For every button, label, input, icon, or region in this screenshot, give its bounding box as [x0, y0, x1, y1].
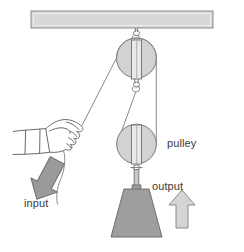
output-arrow	[169, 190, 195, 228]
rope-free-end-segment	[82, 58, 117, 127]
label-output: output	[152, 180, 183, 192]
pulley-diagram: pulley input output	[0, 0, 244, 252]
load-shackle	[131, 165, 143, 190]
ceiling-beam	[31, 11, 213, 28]
label-pulley: pulley	[167, 137, 197, 149]
movable-pulley	[117, 124, 157, 164]
pulley-diagram-svg: pulley input output	[0, 0, 244, 252]
load-weight-body	[111, 189, 162, 237]
arm-bottom-edge	[13, 152, 50, 154]
load-shackle-shaft	[134, 170, 139, 186]
load-weight	[111, 189, 162, 237]
rope-anchor-hook	[132, 79, 139, 92]
sleeve-cuff-left-edge	[25, 130, 26, 154]
arm-top-edge	[13, 129, 46, 132]
label-input: input	[24, 197, 48, 209]
fist-outline	[46, 120, 83, 153]
output-arrow-shape	[169, 190, 195, 228]
